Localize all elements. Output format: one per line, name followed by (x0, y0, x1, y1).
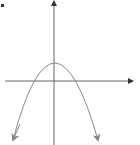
parabola-plot (0, 0, 140, 145)
parabola-curve (13, 63, 98, 140)
